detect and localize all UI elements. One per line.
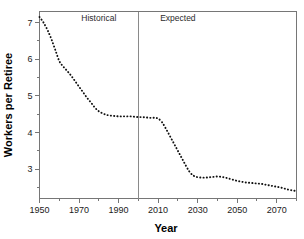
y-tick-label: 4 <box>27 128 32 138</box>
x-axis-ticks <box>40 199 297 204</box>
annotation-expected: Expected <box>160 13 196 23</box>
y-tick-label: 6 <box>27 54 32 64</box>
x-tick-label: 1970 <box>69 205 89 215</box>
chart-container: 34567 1950197019902010203020502070 Histo… <box>0 0 304 239</box>
x-tick-label: 2030 <box>188 205 208 215</box>
y-axis-tick-labels: 34567 <box>27 18 32 175</box>
y-axis-title: Workers per Retiree <box>2 53 14 157</box>
y-tick-label: 3 <box>27 164 32 174</box>
x-tick-label: 1990 <box>109 205 129 215</box>
data-series-line <box>40 17 297 191</box>
x-axis-tick-labels: 1950197019902010203020502070 <box>29 205 286 215</box>
series-line-workers-per-retiree <box>40 17 297 191</box>
x-tick-label: 2050 <box>227 205 247 215</box>
y-axis-ticks <box>35 23 40 188</box>
y-tick-label: 5 <box>27 91 32 101</box>
x-tick-label: 1950 <box>29 205 49 215</box>
x-tick-label: 2070 <box>267 205 287 215</box>
y-tick-label: 7 <box>27 18 32 28</box>
x-tick-label: 2010 <box>148 205 168 215</box>
plot-border <box>40 12 297 199</box>
annotation-historical: Historical <box>81 13 116 23</box>
workers-per-retiree-chart: 34567 1950197019902010203020502070 Histo… <box>0 0 304 239</box>
x-axis-title: Year <box>154 222 178 234</box>
plot-frame <box>40 12 297 199</box>
